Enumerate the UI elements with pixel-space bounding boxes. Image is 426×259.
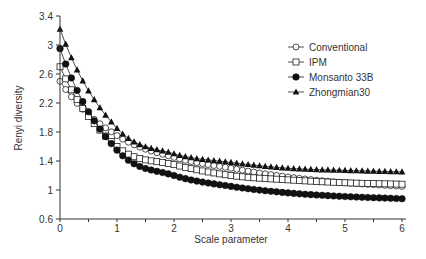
y-tick-label: 1	[47, 185, 53, 196]
chart: 01234560.611.41.82.22.633.4 Scale parame…	[0, 0, 426, 259]
x-tick-label: 5	[342, 223, 348, 234]
legend-label: IPM	[309, 57, 327, 68]
y-tick-label: 2.2	[39, 98, 53, 109]
y-tick-label: 3.4	[39, 11, 53, 22]
x-tick-label: 2	[171, 223, 177, 234]
x-tick-label: 6	[399, 223, 405, 234]
open-circle-marker-icon	[293, 44, 299, 50]
y-tick-label: 2.6	[39, 69, 53, 80]
filled-circle-marker-icon	[293, 74, 300, 81]
legend-label: Zhongmian30	[309, 87, 371, 98]
legend-item: IPM	[288, 57, 327, 68]
x-axis-title: Scale parameter	[194, 234, 268, 245]
x-tick-label: 3	[228, 223, 234, 234]
x-tick-label: 0	[57, 223, 63, 234]
filled-triangle-marker-icon	[293, 88, 300, 94]
legend-item: Monsanto 33B	[288, 72, 374, 83]
legend-label: Monsanto 33B	[309, 72, 374, 83]
x-tick-label: 1	[114, 223, 120, 234]
open-square-marker-icon	[293, 59, 299, 65]
y-tick-label: 0.6	[39, 214, 53, 225]
y-tick-label: 1.4	[39, 156, 53, 167]
x-tick-label: 4	[285, 223, 291, 234]
legend-item: Conventional	[288, 42, 367, 53]
legend-item: Zhongmian30	[288, 87, 371, 98]
legend: ConventionalIPMMonsanto 33BZhongmian30	[288, 42, 374, 98]
legend-label: Conventional	[309, 42, 367, 53]
y-tick-label: 3	[47, 40, 53, 51]
y-tick-label: 1.8	[39, 127, 53, 138]
y-axis-title: Renyi diversity	[13, 85, 24, 150]
